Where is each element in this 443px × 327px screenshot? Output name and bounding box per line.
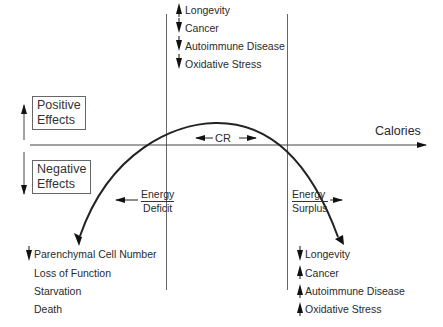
list-item: Oxidative Stress <box>185 58 261 70</box>
up-arrow-icon <box>297 265 303 279</box>
energy-deficit-label: Energy Deficit <box>141 188 174 214</box>
list-item: Cancer <box>185 22 219 34</box>
cr-label: CR <box>215 132 231 144</box>
energy-surplus-label: Energy Surplus <box>292 188 328 214</box>
list-item: Death <box>34 303 62 315</box>
calories-axis-label: Calories <box>375 125 421 137</box>
negative-effects-label: Negative Effects <box>32 160 91 194</box>
down-arrow-icon <box>176 36 182 51</box>
response-curve <box>80 123 338 237</box>
list-item: Cancer <box>305 267 339 279</box>
list-item: Starvation <box>34 285 81 297</box>
down-arrow-icon <box>297 246 303 261</box>
down-arrow-icon <box>176 18 182 33</box>
up-arrow-icon <box>297 302 303 316</box>
list-item: Longevity <box>305 248 350 260</box>
list-item: Oxidative Stress <box>305 303 381 315</box>
down-arrow-icon <box>176 54 182 69</box>
list-item: Autoimmune Disease <box>185 40 285 52</box>
list-item: Loss of Function <box>34 267 111 279</box>
down-arrow-icon <box>26 246 32 261</box>
positive-effects-label: Positive Effects <box>32 96 86 130</box>
up-arrow-icon <box>176 3 182 17</box>
up-arrow-icon <box>297 284 303 298</box>
list-item: Longevity <box>185 4 230 16</box>
list-item: Autoimmune Disease <box>305 285 405 297</box>
list-item: Parenchymal Cell Number <box>34 248 157 260</box>
curve-arrow-right-icon <box>335 235 344 245</box>
